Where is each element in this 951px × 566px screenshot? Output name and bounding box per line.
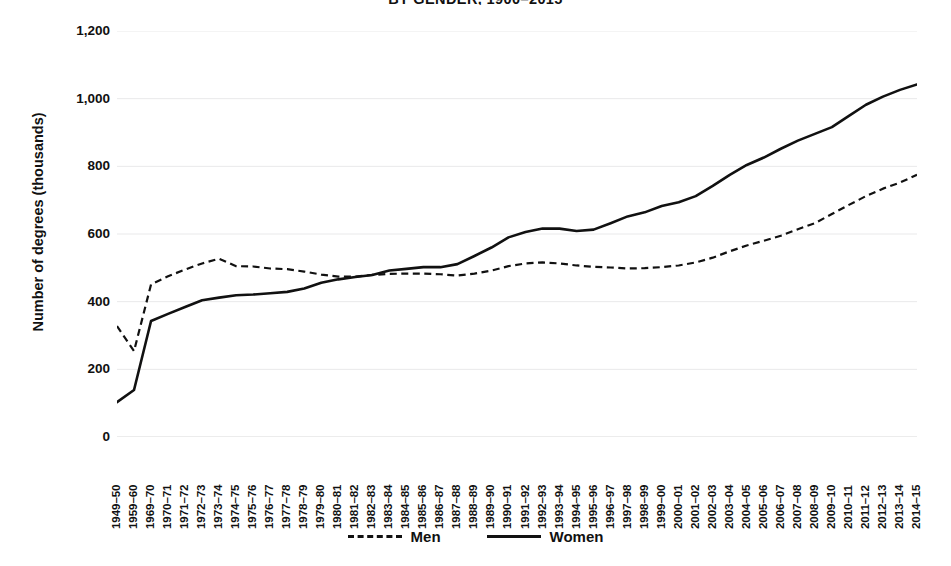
x-tick-label: 2006–07	[773, 485, 786, 529]
x-tick-label: 1987–88	[449, 485, 462, 529]
x-tick-label: 2014–15	[909, 485, 922, 529]
series-line-men	[117, 175, 917, 351]
x-tick-label: 1973–74	[211, 485, 224, 529]
x-tick-label: 1979–80	[313, 485, 326, 529]
x-tick-label: 1977–78	[279, 485, 292, 529]
x-tick-label: 2001–02	[688, 485, 701, 529]
x-tick-label: 2003–04	[722, 485, 735, 529]
legend-swatch-women-solid-line	[487, 535, 541, 538]
y-tick-label: 200	[38, 362, 110, 375]
x-tick-label: 1975–76	[245, 485, 258, 529]
chart-container: BY GENDER, 1900–2015 Number of degrees (…	[0, 0, 951, 566]
plot-area	[117, 31, 917, 437]
x-tick-label: 2002–03	[705, 485, 718, 529]
x-tick-label: 2007–08	[790, 485, 803, 529]
x-tick-label: 2004–05	[739, 485, 752, 529]
x-tick-label: 1986–87	[432, 485, 445, 529]
legend-item-men[interactable]: Men	[348, 528, 441, 545]
series-line-women	[117, 84, 917, 402]
y-tick-label: 1,000	[38, 92, 110, 105]
x-tick-label: 1980–81	[330, 485, 343, 529]
x-tick-label: 1991–92	[518, 485, 531, 529]
x-axis-tick-labels: 1949–501959–601969–701970–711971–721972–…	[117, 443, 917, 529]
x-tick-label: 1988–89	[466, 485, 479, 529]
x-tick-label: 1974–75	[228, 485, 241, 529]
x-tick-label: 1970–71	[160, 485, 173, 529]
chart-legend: Men Women	[0, 528, 951, 545]
x-tick-label: 1982–83	[364, 485, 377, 529]
x-tick-label: 1993–94	[552, 485, 565, 529]
x-tick-label: 1969–70	[143, 485, 156, 529]
x-tick-label: 2011–12	[858, 485, 871, 529]
chart-title: BY GENDER, 1900–2015	[0, 0, 951, 5]
x-tick-label: 1985–86	[415, 485, 428, 529]
y-tick-label: 0	[38, 430, 110, 443]
series-lines	[117, 84, 917, 402]
legend-item-women[interactable]: Women	[487, 528, 604, 545]
x-tick-label: 1996–97	[603, 485, 616, 529]
y-tick-label: 1,200	[38, 24, 110, 37]
x-tick-label: 1994–95	[569, 485, 582, 529]
legend-label-women: Women	[550, 528, 604, 545]
x-tick-label: 1998–99	[637, 485, 650, 529]
x-tick-label: 1992–93	[535, 485, 548, 529]
x-tick-label: 1995–96	[586, 485, 599, 529]
y-tick-label: 600	[38, 227, 110, 240]
y-tick-label: 400	[38, 295, 110, 308]
x-tick-label: 1989–90	[483, 485, 496, 529]
legend-swatch-men-dashed-line	[348, 535, 402, 538]
x-tick-label: 1976–77	[262, 485, 275, 529]
x-tick-label: 1983–84	[381, 485, 394, 529]
x-tick-label: 2012–13	[875, 485, 888, 529]
x-tick-label: 2010–11	[841, 485, 854, 529]
x-tick-label: 1978–79	[296, 485, 309, 529]
plot-svg	[117, 31, 917, 437]
x-tick-label: 2005–06	[756, 485, 769, 529]
legend-label-men: Men	[411, 528, 441, 545]
x-tick-label: 1997–98	[620, 485, 633, 529]
y-tick-label: 800	[38, 159, 110, 172]
x-tick-label: 1972–73	[194, 485, 207, 529]
x-tick-label: 1971–72	[177, 485, 190, 529]
x-tick-label: 1959–60	[126, 485, 139, 529]
x-tick-label: 1984–85	[398, 485, 411, 529]
x-tick-label: 2008–09	[807, 485, 820, 529]
x-tick-label: 2000–01	[671, 485, 684, 529]
x-tick-label: 1981–82	[347, 485, 360, 529]
x-tick-label: 1990–91	[500, 485, 513, 529]
x-tick-label: 1949–50	[109, 485, 122, 529]
x-tick-label: 1999–00	[654, 485, 667, 529]
x-tick-label: 2009–10	[824, 485, 837, 529]
x-tick-label: 2013–14	[892, 485, 905, 529]
y-axis-tick-labels: 02004006008001,0001,200	[28, 0, 110, 566]
